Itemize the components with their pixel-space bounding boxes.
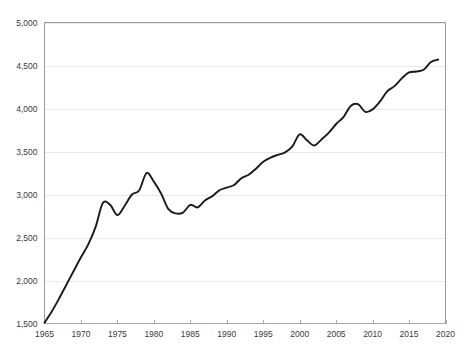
y-tick-label-2500: 2,500 bbox=[16, 233, 38, 243]
y-tick-label-4000: 4,000 bbox=[16, 104, 38, 114]
x-tick-label-2000: 2000 bbox=[290, 329, 309, 339]
x-tick-label-2005: 2005 bbox=[327, 329, 346, 339]
x-tick-label-1980: 1980 bbox=[144, 329, 163, 339]
x-tick-label-1970: 1970 bbox=[71, 329, 90, 339]
x-tick-label-1975: 1975 bbox=[108, 329, 127, 339]
y-tick-label-3500: 3,500 bbox=[16, 147, 38, 157]
y-tick-label-1500: 1,500 bbox=[16, 319, 38, 329]
x-tick-label-1985: 1985 bbox=[181, 329, 200, 339]
y-tick-label-4500: 4,500 bbox=[16, 61, 38, 71]
x-tick-label-1990: 1990 bbox=[217, 329, 236, 339]
y-tick-label-3000: 3,000 bbox=[16, 190, 38, 200]
y-tick-label-2000: 2,000 bbox=[16, 276, 38, 286]
line-chart: 1,5002,0002,5003,0003,5004,0004,5005,000… bbox=[0, 0, 473, 363]
chart-canvas: 1,5002,0002,5003,0003,5004,0004,5005,000… bbox=[0, 0, 473, 363]
x-tick-label-2010: 2010 bbox=[363, 329, 382, 339]
y-tick-label-5000: 5,000 bbox=[16, 18, 38, 28]
x-tick-label-2015: 2015 bbox=[400, 329, 419, 339]
x-tick-label-2020: 2020 bbox=[436, 329, 455, 339]
x-tick-label-1995: 1995 bbox=[254, 329, 273, 339]
chart-background bbox=[0, 0, 473, 363]
x-tick-label-1965: 1965 bbox=[35, 329, 54, 339]
